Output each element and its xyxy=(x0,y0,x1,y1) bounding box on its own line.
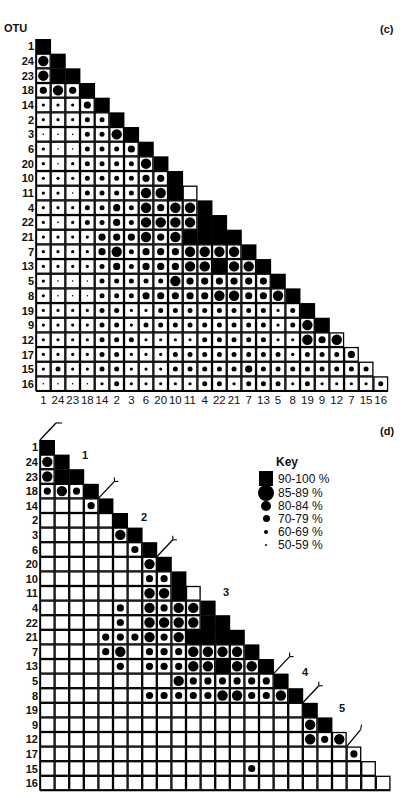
tiny-dot-icon xyxy=(258,525,274,538)
row-label: 12 xyxy=(26,733,38,745)
cell xyxy=(303,762,317,776)
cell xyxy=(70,733,84,747)
cell xyxy=(41,572,55,586)
key-label: 50-59 % xyxy=(278,538,323,552)
similarity-dot xyxy=(131,634,138,641)
cell xyxy=(55,514,69,528)
black-square-icon xyxy=(258,471,274,486)
cell xyxy=(230,703,244,717)
similarity-dot xyxy=(217,647,227,657)
cell-black xyxy=(230,630,245,645)
cell xyxy=(216,703,230,717)
cell xyxy=(128,776,142,790)
similarity-dot xyxy=(234,677,241,684)
similarity-dot xyxy=(161,648,168,655)
similarity-dot xyxy=(161,634,168,641)
row-label: 1 xyxy=(32,441,38,453)
cell xyxy=(157,762,171,776)
row-label: 15 xyxy=(26,763,38,775)
row-label: 4 xyxy=(32,602,39,614)
cell xyxy=(187,762,201,776)
key-label: 85-89 % xyxy=(278,486,323,500)
cell xyxy=(114,718,128,732)
similarity-dot xyxy=(44,488,51,495)
cell xyxy=(99,689,113,703)
cell xyxy=(41,703,55,717)
cell xyxy=(70,718,84,732)
cell xyxy=(114,776,128,790)
cell xyxy=(347,776,361,790)
cell xyxy=(41,616,55,630)
cell xyxy=(41,601,55,615)
key-title: Key xyxy=(276,455,329,469)
similarity-dot xyxy=(161,604,168,611)
similarity-dot xyxy=(117,604,124,611)
cell xyxy=(172,776,186,790)
cell-black xyxy=(142,542,157,557)
cell xyxy=(143,674,157,688)
cell xyxy=(303,747,317,761)
similarity-dot xyxy=(232,647,242,657)
cell xyxy=(84,645,98,659)
cell xyxy=(187,733,201,747)
cell xyxy=(128,703,142,717)
cell xyxy=(274,762,288,776)
cell xyxy=(41,645,55,659)
cell-black xyxy=(288,688,303,703)
similarity-matrix-d: 1242318142362010114222171358199121715161… xyxy=(0,0,416,802)
cell xyxy=(114,674,128,688)
row-label: 24 xyxy=(26,456,39,468)
cluster-boundary-mark xyxy=(157,536,177,557)
cell xyxy=(128,747,142,761)
cell xyxy=(157,776,171,790)
cell xyxy=(84,514,98,528)
cell xyxy=(84,703,98,717)
cell xyxy=(84,747,98,761)
cell xyxy=(99,528,113,542)
cell xyxy=(99,747,113,761)
similarity-dot xyxy=(276,690,286,700)
row-label: 8 xyxy=(32,690,38,702)
cluster-label: 5 xyxy=(339,702,345,714)
similarity-dot xyxy=(232,690,242,700)
key-label: 90-100 % xyxy=(278,472,329,486)
cell xyxy=(230,762,244,776)
similarity-dot xyxy=(144,559,154,569)
medium-dot-icon xyxy=(258,499,274,512)
cell-black xyxy=(201,630,216,645)
similarity-dot xyxy=(144,617,154,627)
cell xyxy=(260,747,274,761)
cell xyxy=(347,762,361,776)
key-entry: 80-84 % xyxy=(258,499,329,512)
cell-black xyxy=(215,615,230,630)
similarity-dot xyxy=(248,692,255,699)
cell xyxy=(201,718,215,732)
similarity-dot xyxy=(204,692,211,699)
cell xyxy=(55,587,69,601)
row-label: 10 xyxy=(26,573,38,585)
similarity-dot xyxy=(42,471,52,481)
cell-black xyxy=(317,717,332,732)
cell xyxy=(41,733,55,747)
cell xyxy=(70,528,84,542)
row-label: 20 xyxy=(26,558,38,570)
cell xyxy=(128,616,142,630)
row-label: 14 xyxy=(26,500,39,512)
key-entry: 85-89 % xyxy=(258,486,329,499)
cell xyxy=(114,762,128,776)
cell xyxy=(84,733,98,747)
cell xyxy=(70,703,84,717)
cell xyxy=(201,762,215,776)
cell xyxy=(114,747,128,761)
cell xyxy=(99,660,113,674)
cell xyxy=(201,747,215,761)
cell xyxy=(172,762,186,776)
cell xyxy=(289,762,303,776)
similarity-dot xyxy=(161,692,168,699)
point-icon xyxy=(258,538,274,551)
cell xyxy=(55,601,69,615)
similarity-dot xyxy=(305,734,315,744)
small-dot-icon xyxy=(258,512,274,525)
cell-black xyxy=(157,557,172,572)
cell xyxy=(84,557,98,571)
